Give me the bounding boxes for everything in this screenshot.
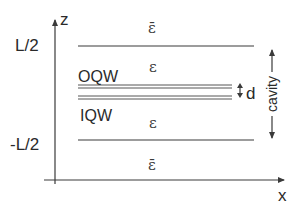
d-arrow-down-icon	[237, 93, 243, 98]
epsilon-bar-top: ε̄	[148, 19, 156, 37]
cavity-diagram: z x L/2 -L/2 OQW IQW d ε̄ ε ε ε̄ cavity	[0, 0, 299, 212]
d-arrow-up-icon	[237, 83, 243, 88]
x-axis-label: x	[278, 186, 287, 205]
epsilon-inner-bottom: ε	[149, 114, 157, 132]
top-boundary-label: L/2	[15, 36, 39, 55]
d-label: d	[246, 84, 255, 103]
epsilon-inner-top: ε	[149, 58, 157, 76]
oqw-label: OQW	[78, 68, 119, 85]
cavity-label: cavity	[264, 76, 280, 112]
z-axis-label: z	[60, 10, 69, 29]
epsilon-bar-bottom: ε̄	[148, 156, 156, 174]
bottom-boundary-label: -L/2	[10, 135, 39, 154]
iqw-label: IQW	[80, 107, 113, 124]
